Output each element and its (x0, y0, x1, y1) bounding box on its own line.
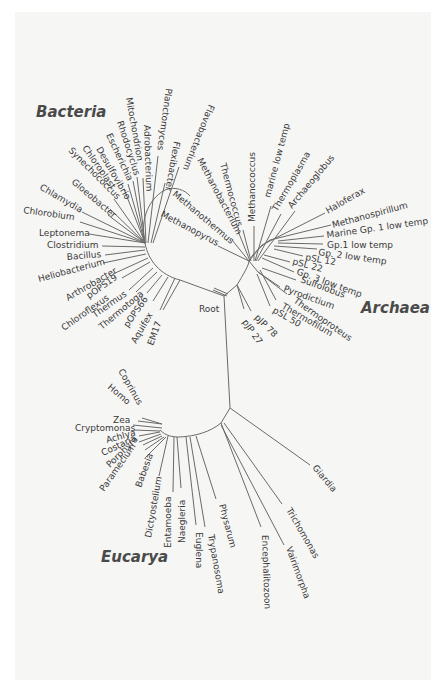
branch-bacillus (105, 250, 145, 255)
leaf-label-planctomyces: Planctomyces (155, 88, 174, 151)
branch-psl-12 (274, 249, 303, 256)
branch-zea (133, 425, 162, 428)
leaf-label-gp-1-low-temp: Gp.1 low temp (327, 240, 393, 250)
branch-trichomonas (224, 423, 282, 504)
branch-trypanosoma (190, 437, 205, 527)
branch-thermofilum (260, 270, 276, 300)
leaf-label-euglena: Euglena (194, 532, 204, 568)
branch-entamoeba (173, 437, 174, 492)
bacteria-stem (180, 280, 224, 296)
leaf-label-dictyostelium: Dictyostelium (143, 476, 164, 539)
branch-cryptomonas (134, 430, 160, 431)
root-label: Root (199, 304, 220, 314)
branch-marine-low-temp (255, 206, 271, 261)
leaf-label-trypanosoma: Trypanosoma (206, 533, 226, 595)
domain-label-bacteria: Bacteria (36, 103, 106, 121)
leaf-labels: ChlamydiaChlorobiumLeptonemaClostridiumB… (23, 88, 429, 610)
archaea-branch-lower (249, 261, 258, 272)
leaf-label-methanococcus: Methanococcus (247, 152, 257, 222)
leaf-label-giardia: Giardia (310, 463, 338, 494)
domain-label-eucarya: Eucarya (101, 548, 168, 566)
eucarya-arc (160, 423, 221, 437)
leaf-label-haloferax: Haloferax (324, 185, 367, 216)
branch-methanopyrus (218, 246, 249, 261)
branch-clostridium (102, 246, 145, 247)
branch-gp-1-low-temp (278, 243, 323, 244)
phylogenetic-tree: ChlamydiaChlorobiumLeptonemaClostridiumB… (0, 0, 442, 695)
leaf-label-entamoeba: Entamoeba (163, 497, 173, 548)
main-trunk (224, 296, 230, 408)
leaf-label-encephalitozoon: Encephalitozoon (260, 535, 273, 610)
branch-gp-2-low-temp (274, 246, 317, 249)
leaf-label-vairimorpha: Vairimorpha (284, 545, 312, 600)
leaf-label-adrobacterium: Adrobacterium (142, 125, 154, 192)
eucarya-stem (221, 408, 230, 423)
bacteria-arc-lower (145, 243, 180, 280)
leaf-label-physarum: Physarum (217, 503, 238, 549)
domain-label-archaea: Archaea (360, 299, 430, 317)
leaf-label-clostridium: Clostridium (47, 240, 98, 250)
leaf-label-naegleria: Naegleria (177, 500, 187, 543)
branch-naegleria (177, 437, 181, 488)
branch-aquifex (160, 278, 175, 310)
branch-pjp-78 (237, 285, 251, 311)
archaea-stem (224, 285, 237, 296)
leaf-label-leptonema: Leptonema (39, 228, 90, 238)
branch-giardia (230, 408, 310, 465)
branch-archaeoglobus (258, 211, 295, 261)
branch-euglena (186, 437, 196, 525)
branch-pops19 (122, 262, 150, 278)
